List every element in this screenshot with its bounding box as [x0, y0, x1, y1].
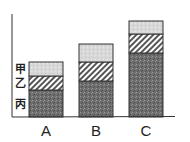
x-axis: [12, 117, 175, 118]
category-labels: ABC: [41, 122, 152, 139]
bar-segment-B-丙: [79, 81, 113, 117]
legend-label: 甲: [15, 63, 26, 76]
category-label-A: A: [41, 122, 51, 139]
legend: 甲乙丙: [15, 63, 26, 111]
bar-segment-A-乙: [29, 76, 63, 90]
bar-segment-C-甲: [129, 21, 163, 34]
bars-group: [29, 21, 163, 117]
stacked-bar-chart: ABC 甲乙丙: [0, 0, 190, 142]
bar-segment-A-丙: [29, 90, 63, 117]
category-label-C: C: [141, 122, 152, 139]
bar-segment-C-丙: [129, 53, 163, 117]
bar-segment-B-甲: [79, 44, 113, 62]
bar-segment-C-乙: [129, 34, 163, 53]
category-label-B: B: [91, 122, 101, 139]
bar-segment-B-乙: [79, 62, 113, 81]
legend-label: 丙: [15, 98, 26, 111]
legend-label: 乙: [15, 77, 26, 90]
bar-segment-A-甲: [29, 62, 63, 76]
